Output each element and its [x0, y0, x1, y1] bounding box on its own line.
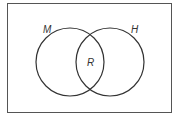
- venn-diagram: M H R: [0, 0, 177, 117]
- set-m-label: M: [43, 24, 52, 35]
- set-h-label: H: [131, 24, 139, 35]
- intersection-r-label: R: [87, 57, 94, 68]
